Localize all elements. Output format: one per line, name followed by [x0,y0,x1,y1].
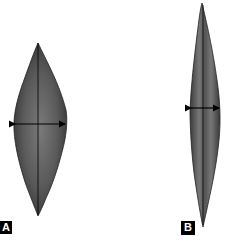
panel-label-a: A [0,221,12,234]
panel-label-b: B [181,221,195,235]
leaf-shape-b [190,3,220,227]
panel-a-shape [14,43,67,216]
figure-canvas [0,0,233,247]
leaf-shape-a [14,43,67,216]
panel-b-shape [190,3,220,227]
